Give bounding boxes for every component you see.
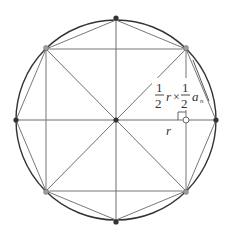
point-bottom — [113, 219, 118, 224]
point-right — [213, 117, 218, 122]
octagon-diagram: 1 2 r × 1 2 a n r — [0, 0, 230, 234]
point-midpoint — [183, 117, 189, 123]
point-top — [113, 15, 118, 20]
diagram-canvas: 1 2 r × 1 2 a n r — [0, 0, 230, 234]
point-center — [113, 117, 118, 122]
radius-label: r — [166, 123, 172, 138]
side-subscript: n — [200, 97, 204, 105]
fraction-1-denominator: 2 — [155, 96, 162, 111]
point-square-tr — [184, 46, 189, 51]
side-symbol: a — [192, 89, 199, 104]
fraction-2-denominator: 2 — [181, 96, 188, 111]
point-square-br — [184, 190, 189, 195]
fraction-1-numerator: 1 — [156, 80, 163, 95]
point-square-bl — [44, 190, 49, 195]
point-left — [13, 117, 18, 122]
times-symbol: × — [173, 90, 180, 104]
point-square-tl — [44, 46, 49, 51]
fraction-2-numerator: 1 — [182, 80, 189, 95]
